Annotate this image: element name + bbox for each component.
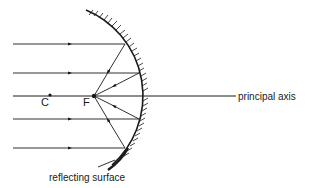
concave-mirror	[86, 10, 143, 165]
center-label: C	[41, 96, 49, 108]
principal-axis-label: principal axis	[238, 91, 296, 102]
focus-label: F	[83, 96, 90, 108]
ray-diagram: C F principal axis reflecting surface	[0, 0, 325, 188]
focus-dot	[92, 94, 96, 98]
reflecting-surface-label: reflecting surface	[49, 172, 126, 183]
